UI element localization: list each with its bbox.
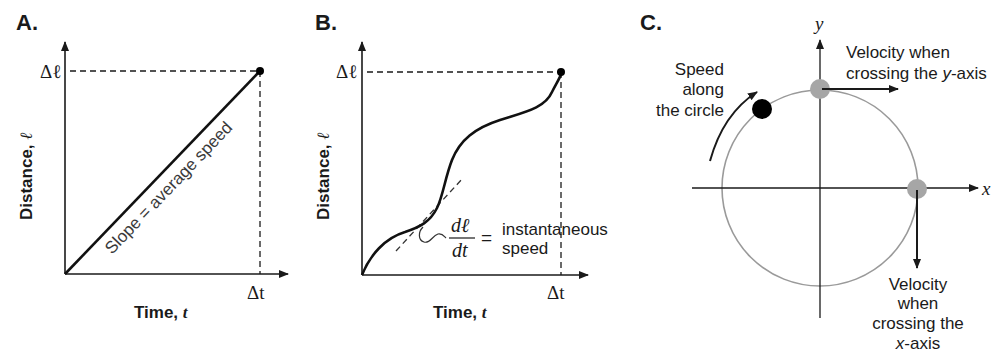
panel-a-slope-label: Slope = average speed	[101, 118, 236, 258]
panel-b-y-tick: Δℓ	[336, 61, 357, 82]
panel-c-moving-particle	[752, 99, 772, 119]
panel-c-speed-label-line3: the circle	[656, 101, 724, 120]
panel-c-x-label: x	[981, 178, 991, 199]
panel-c-vel-x-line3: crossing the	[872, 314, 964, 333]
panel-b-y-title: Distance, ℓ	[314, 133, 333, 220]
panel-a-y-tick: Δℓ	[40, 61, 61, 82]
panel-c-vel-y-line1: Velocity when	[846, 43, 950, 62]
panel-a: A. Δℓ Δt Slope = average speed Time, t D…	[16, 10, 288, 322]
panel-b-x-tick: Δt	[547, 282, 565, 303]
panel-b-speed: speed	[502, 239, 548, 258]
panel-b-letter: B.	[315, 10, 337, 35]
panel-b-x-title: Time, t	[433, 303, 488, 322]
panel-c-vel-x-line1: Velocity	[889, 275, 948, 294]
panel-a-x-tick: Δt	[247, 282, 265, 303]
panel-b-instantaneous: instantaneous	[502, 220, 608, 239]
panel-a-endpoint	[256, 67, 264, 75]
panel-a-y-title: Distance, ℓ	[17, 133, 36, 220]
panel-a-x-title: Time, t	[134, 303, 189, 322]
panel-c-y-label: y	[813, 13, 824, 34]
panel-b-deriv-numerator: dℓ	[451, 214, 470, 236]
panel-a-distance-line	[65, 71, 260, 274]
panel-b-equals: =	[481, 227, 492, 248]
panel-c-vel-x-line2: when	[897, 294, 939, 313]
panel-b-endpoint	[557, 68, 565, 76]
panel-b-squiggle-pointer	[419, 227, 446, 242]
figure: A. Δℓ Δt Slope = average speed Time, t D…	[0, 0, 1003, 356]
panel-b: B. Δℓ Δt dℓ dt = instantaneous speed Tim…	[314, 10, 608, 322]
panel-c-speed-label-line2: along	[682, 80, 724, 99]
panel-c: C. y x Speed along the circle Velocity w…	[640, 10, 991, 353]
panel-c-vel-y-line2: crossing the y-axis	[846, 64, 987, 83]
panel-c-speed-label-line1: Speed	[675, 60, 724, 79]
panel-c-letter: C.	[640, 10, 662, 35]
panel-b-deriv-denominator: dt	[452, 239, 468, 261]
panel-c-vel-x-line4: x-axis	[895, 334, 940, 353]
panel-a-letter: A.	[16, 10, 38, 35]
